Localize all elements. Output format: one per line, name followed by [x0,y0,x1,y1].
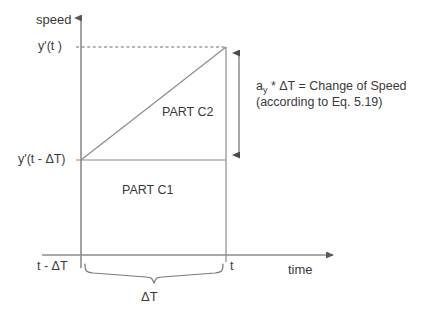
change-of-speed-annotation: ay * ΔT = Change of Speed (according to … [256,79,407,110]
region-label-part-c2: PART C2 [162,105,213,120]
y-tick-label-speed-at-t: y'(t ) [38,39,62,54]
delta-t-brace-shape [85,264,223,283]
x-axis-label: time [288,262,313,277]
annotation-line-1: ay * ΔT = Change of Speed [256,79,407,95]
diagram-canvas: speed time y'(t ) y'(t - ΔT) t - ΔT t PA… [0,0,428,316]
annotation-line-2: (according to Eq. 5.19) [256,95,407,110]
speed-ramp-line [81,47,226,160]
y-axis-label: speed [36,12,71,27]
x-tick-label-t: t [230,259,233,274]
annotation-term-a: a [256,79,263,93]
annotation-line-1-rest: * ΔT = Change of Speed [267,79,406,93]
delta-t-brace-label: ΔT [141,289,158,304]
x-tick-label-t-minus-dt: t - ΔT [37,259,68,274]
y-tick-label-speed-at-t-minus-dt: y'(t - ΔT) [18,152,66,167]
region-label-part-c1: PART C1 [122,183,173,198]
